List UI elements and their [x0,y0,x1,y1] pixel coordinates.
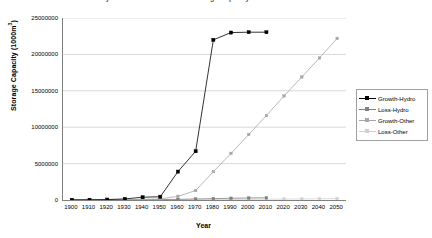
y-axis-tick-labels: 2500000020000000150000001000000050000000 [0,0,58,238]
series-marker [283,198,286,200]
plot-area [62,18,346,201]
legend-item-label: Loss-Other [376,128,408,136]
series-marker [177,198,180,200]
legend-marker-icon [365,118,369,122]
y-axis-tick-label: 20000000 [6,51,58,57]
series-marker [194,198,197,200]
x-axis-tick-label: 2050 [324,204,348,211]
series-marker [265,197,268,200]
series-line [72,38,337,200]
legend-marker-icon [365,96,369,100]
series-marker [336,197,339,200]
series-marker [212,170,215,173]
series-marker [194,189,197,192]
series-marker [230,197,233,200]
series-marker [88,198,91,200]
series-marker [229,31,232,34]
series-marker [318,197,321,200]
series-marker [247,133,250,136]
series-marker [194,150,197,153]
legend-item[interactable]: Growth-Other [359,115,425,126]
series-marker [318,57,321,60]
legend-swatch-icon [359,127,376,136]
legend-item[interactable]: Loss-Hydro [359,104,425,115]
series-growth-hydro [70,31,268,200]
legend-item-label: Growth-Other [376,117,414,125]
series-marker [70,198,73,200]
legend-item-label: Loss-Hydro [376,106,409,114]
series-marker [212,197,215,200]
series-marker [159,195,162,198]
legend-item[interactable]: Growth-Hydro [359,93,425,104]
legend-marker-icon [365,129,369,133]
y-axis-tick-label: 0 [6,197,58,203]
series-marker [265,31,268,34]
series-line [72,32,267,200]
series-marker [300,76,303,79]
legend-swatch-icon [359,105,376,114]
legend-item[interactable]: Loss-Other [359,126,425,137]
series-marker [212,38,215,41]
series-marker [265,114,268,117]
chart-container: Hydro and Other Reservoir Storage Capaci… [0,0,432,238]
legend-swatch-icon [359,94,376,103]
series-marker [300,198,303,200]
chart-legend: Growth-HydroLoss-HydroGrowth-OtherLoss-O… [356,89,428,141]
series-marker [123,197,126,200]
y-axis-tick-label: 25000000 [6,15,58,21]
series-marker [141,196,144,199]
y-axis-tick-label: 10000000 [6,124,58,130]
y-axis-tick-label: 15000000 [6,88,58,94]
series-marker [247,31,250,34]
series-marker [247,197,250,200]
y-axis-tick-label: 5000000 [6,161,58,167]
plot-svg [63,18,346,200]
series-marker [176,170,179,173]
legend-swatch-icon [359,116,376,125]
x-axis-title: Year [62,222,345,229]
series-marker [230,152,233,155]
series-marker [283,95,286,98]
legend-marker-icon [365,107,369,111]
series-marker [336,37,339,40]
series-marker [106,198,109,200]
series-marker [177,195,180,198]
x-axis-tick-labels: 1900191019201930194019501960197019801990… [0,204,432,216]
legend-item-label: Growth-Hydro [376,95,415,103]
series-growth-other [71,37,339,200]
